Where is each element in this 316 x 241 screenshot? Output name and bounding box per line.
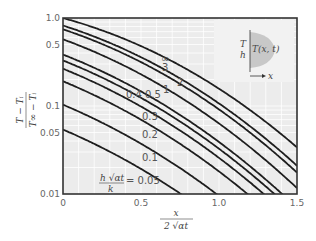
label-1: 1 [163, 84, 169, 95]
label-01: 0.1 [142, 152, 158, 163]
inset-diagram: T h T(x, t) x [214, 20, 294, 82]
semi-infinite-solid-chart: T h T(x, t) x ∞ 3 2 1 0.4 0.5 0.3 0.2 0.… [0, 0, 316, 241]
inset-x-label: x [268, 71, 273, 81]
svg-text:0: 0 [60, 198, 66, 208]
label-04: 0.4 [126, 89, 142, 100]
label-03: 0.3 [142, 111, 158, 122]
param-denominator: k [108, 184, 113, 194]
label-02: 0.2 [142, 129, 158, 140]
svg-text:1.0: 1.0 [212, 198, 227, 208]
svg-text:0.01: 0.01 [40, 189, 60, 199]
svg-text:0.5: 0.5 [46, 40, 60, 50]
y-axis-ticks: 1.0 0.5 0.1 0.05 0.01 [40, 13, 60, 199]
inset-h-label: h [240, 50, 246, 60]
label-05: 0.5 [145, 89, 161, 100]
param-numerator: h √αt [100, 173, 124, 183]
svg-text:1.0: 1.0 [46, 13, 61, 23]
svg-text:0.1: 0.1 [46, 101, 60, 111]
svg-text:T − Tᵢ: T − Tᵢ [15, 96, 25, 123]
svg-text:T∞ − Tᵢ: T∞ − Tᵢ [28, 93, 38, 128]
svg-text:0.05: 0.05 [40, 128, 60, 138]
svg-text:x: x [173, 208, 178, 218]
svg-text:1.5: 1.5 [290, 198, 304, 208]
y-axis-label: T − Tᵢ T∞ − Tᵢ [15, 92, 38, 128]
label-2: 2 [177, 77, 183, 88]
label-3: 3 [162, 62, 168, 73]
x-axis-label: x 2 √αt [160, 208, 193, 231]
svg-text:0.5: 0.5 [134, 198, 148, 208]
svg-text:2 √αt: 2 √αt [163, 221, 188, 231]
inset-field-label: T(x, t) [252, 44, 280, 54]
inset-T-label: T [240, 39, 247, 49]
x-axis-ticks: 0 0.5 1.0 1.5 [60, 198, 304, 208]
label-005: = 0.05 [126, 175, 160, 186]
